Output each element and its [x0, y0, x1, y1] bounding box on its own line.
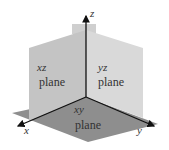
- coordinate-planes-diagram: z x y xz plane yz plane xy plane: [0, 0, 169, 150]
- xy-plane-name: xy: [73, 103, 84, 115]
- z-axis-label: z: [89, 7, 95, 19]
- yz-plane-word: plane: [98, 75, 124, 89]
- xz-plane-name: xz: [36, 61, 47, 73]
- x-axis-label: x: [23, 124, 29, 136]
- xy-plane-word: plane: [75, 118, 101, 132]
- y-axis-label: y: [136, 124, 142, 136]
- xz-plane-word: plane: [39, 75, 65, 89]
- yz-plane-name: yz: [97, 61, 108, 73]
